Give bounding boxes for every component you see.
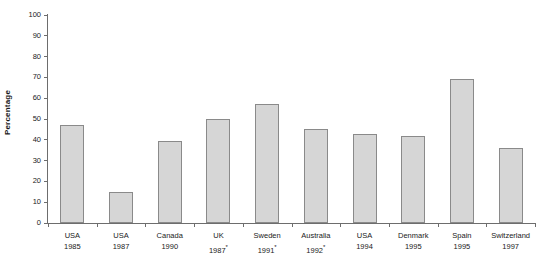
x-axis-label-country: Sweden: [243, 231, 292, 242]
x-axis-tick-mark: [243, 223, 244, 227]
x-axis-tick-mark: [535, 223, 536, 227]
x-axis-label: Canada1990: [145, 231, 194, 252]
bar-slot: [243, 15, 292, 223]
x-axis-label-country: UK: [194, 231, 243, 242]
x-axis-tick-mark: [486, 223, 487, 227]
y-axis-tick-label: 30: [33, 156, 41, 165]
x-axis-label-year: 1987*: [194, 242, 243, 256]
bar[interactable]: [109, 192, 133, 223]
x-axis-label-year-text: 1997: [502, 242, 519, 251]
x-axis-tick-mark: [48, 223, 49, 227]
y-axis-tick-label: 40: [33, 135, 41, 144]
x-axis-label-year-text: 1995: [454, 242, 471, 251]
x-axis-label-country: USA: [340, 231, 389, 242]
bar[interactable]: [450, 79, 474, 223]
x-axis-label-year: 1987: [97, 242, 146, 253]
bar-slot: [438, 15, 487, 223]
x-axis-label-year: 1991*: [243, 242, 292, 256]
x-axis-label-country: USA: [97, 231, 146, 242]
y-axis-tick-label: 80: [33, 52, 41, 61]
x-axis-label-country: Australia: [292, 231, 341, 242]
x-axis-label: Switzerland1997: [486, 231, 535, 252]
bar-slot: [194, 15, 243, 223]
x-axis-label: USA1994: [340, 231, 389, 252]
x-axis-label-year-text: 1994: [356, 242, 373, 251]
x-axis-label-country: Canada: [145, 231, 194, 242]
x-axis-tick-mark: [389, 223, 390, 227]
x-axis-label-country: Switzerland: [486, 231, 535, 242]
x-axis-label-year: 1995: [438, 242, 487, 253]
y-axis-tick-label: 60: [33, 93, 41, 102]
y-axis-tick-label: 70: [33, 72, 41, 81]
x-axis-label: UK1987*: [194, 231, 243, 256]
bar[interactable]: [60, 125, 84, 223]
x-axis-label-year: 1994: [340, 242, 389, 253]
y-axis-tick-label: 20: [33, 176, 41, 185]
plot-area: [48, 15, 535, 223]
x-axis-label-year-text: 1995: [405, 242, 422, 251]
bar[interactable]: [304, 129, 328, 223]
x-axis-label-year: 1985: [48, 242, 97, 253]
x-axis-label-footnote-marker: *: [226, 244, 228, 250]
bar-slot: [340, 15, 389, 223]
y-axis-title: Percentage: [0, 0, 16, 225]
bar[interactable]: [158, 141, 182, 223]
x-axis-label: Australia1992*: [292, 231, 341, 256]
x-axis-label: USA1987: [97, 231, 146, 252]
bar[interactable]: [206, 119, 230, 223]
x-axis-label-year-text: 1987: [113, 242, 130, 251]
x-axis-tick-mark: [292, 223, 293, 227]
y-axis-tick-label: 10: [33, 197, 41, 206]
x-axis-label-year: 1997: [486, 242, 535, 253]
bar[interactable]: [499, 148, 523, 223]
x-axis-label: USA1985: [48, 231, 97, 252]
bar-slot: [486, 15, 535, 223]
x-axis-label-year-text: 1990: [161, 242, 178, 251]
bar-chart: Percentage 0102030405060708090100 USA198…: [0, 0, 544, 267]
x-axis-label: Denmark1995: [389, 231, 438, 252]
x-axis-tick-mark: [194, 223, 195, 227]
x-axis-label-year-text: 1985: [64, 242, 81, 251]
y-axis-tick-label: 0: [37, 218, 41, 227]
x-axis-label-country: USA: [48, 231, 97, 242]
x-axis-label-year-text: 1992: [306, 245, 323, 254]
x-axis-label-year: 1992*: [292, 242, 341, 256]
bar[interactable]: [401, 136, 425, 223]
y-axis-tick-label: 90: [33, 31, 41, 40]
x-axis-label: Sweden1991*: [243, 231, 292, 256]
x-axis-label-year-text: 1991: [258, 245, 275, 254]
y-axis-title-label: Percentage: [4, 90, 13, 135]
x-axis-tick-mark: [145, 223, 146, 227]
x-axis-tick-mark: [97, 223, 98, 227]
x-axis-tick-mark: [340, 223, 341, 227]
x-axis-label-footnote-marker: *: [323, 244, 325, 250]
bar-slot: [145, 15, 194, 223]
x-axis-label-footnote-marker: *: [274, 244, 276, 250]
bar-slot: [48, 15, 97, 223]
bar-slot: [97, 15, 146, 223]
bar[interactable]: [255, 104, 279, 223]
x-axis-label-year-text: 1987: [209, 245, 226, 254]
bar-slot: [389, 15, 438, 223]
y-axis-tick-label: 100: [28, 10, 41, 19]
x-axis-label-country: Denmark: [389, 231, 438, 242]
x-axis-label-country: Spain: [438, 231, 487, 242]
bar-slot: [292, 15, 341, 223]
x-axis-label-year: 1995: [389, 242, 438, 253]
x-axis-label: Spain1995: [438, 231, 487, 252]
y-axis-tick-label: 50: [33, 114, 41, 123]
x-axis-label-year: 1990: [145, 242, 194, 253]
x-axis-tick-mark: [438, 223, 439, 227]
bar[interactable]: [353, 134, 377, 223]
